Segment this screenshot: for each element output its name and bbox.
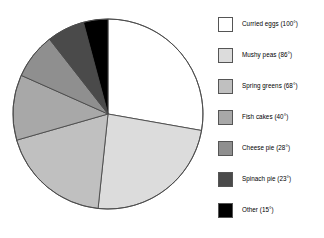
legend-label-other: Other (15°): [242, 206, 274, 214]
pie-chart-plot-area: [0, 0, 215, 238]
legend-item-spring-greens[interactable]: Spring greens (68°): [218, 78, 298, 94]
legend-item-spinach-pie[interactable]: Spinach pie (23°): [218, 171, 291, 187]
legend-swatch-spring-greens: [218, 79, 233, 94]
legend-item-other[interactable]: Other (15°): [218, 202, 274, 218]
legend-item-cheese-pie[interactable]: Cheese pie (28°): [218, 140, 290, 156]
legend-swatch-mushy-peas: [218, 48, 233, 63]
pie-slice-curried-eggs[interactable]: [108, 19, 203, 130]
legend-swatch-curried-eggs: [218, 17, 233, 32]
legend-label-spring-greens: Spring greens (68°): [242, 82, 298, 90]
legend-label-spinach-pie: Spinach pie (23°): [242, 175, 291, 183]
legend-swatch-other: [218, 203, 233, 218]
pie-chart-figure: Curried eggs (100°)Mushy peas (86°)Sprin…: [0, 0, 324, 238]
legend-item-curried-eggs[interactable]: Curried eggs (100°): [218, 16, 298, 32]
legend-label-fish-cakes: Fish cakes (40°): [242, 113, 288, 121]
legend-item-fish-cakes[interactable]: Fish cakes (40°): [218, 109, 288, 125]
pie-chart-svg: [0, 0, 215, 238]
legend-swatch-cheese-pie: [218, 141, 233, 156]
legend-label-curried-eggs: Curried eggs (100°): [242, 20, 298, 28]
legend-swatch-fish-cakes: [218, 110, 233, 125]
legend-item-mushy-peas[interactable]: Mushy peas (86°): [218, 47, 292, 63]
chart-legend: Curried eggs (100°)Mushy peas (86°)Sprin…: [218, 8, 324, 230]
legend-swatch-spinach-pie: [218, 172, 233, 187]
pie-slice-mushy-peas[interactable]: [98, 114, 201, 209]
legend-label-mushy-peas: Mushy peas (86°): [242, 51, 292, 59]
legend-label-cheese-pie: Cheese pie (28°): [242, 144, 290, 152]
